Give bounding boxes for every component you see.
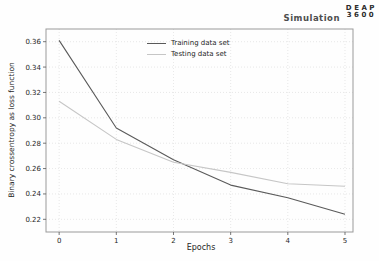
training-line-swatch <box>147 43 166 44</box>
testing-data-line <box>59 101 345 186</box>
x-tick-label: 4 <box>286 237 291 245</box>
legend-label-training: Training data set <box>171 39 230 47</box>
logo-text-3600: 3600 <box>343 12 377 19</box>
y-tick-label: 0.36 <box>25 38 41 46</box>
y-tick-label: 0.32 <box>25 89 41 97</box>
x-tick-label: 5 <box>343 237 347 245</box>
deap-3600-logo: DEAP 3600 <box>343 5 377 19</box>
y-tick-label: 0.30 <box>25 114 41 122</box>
legend-label-testing: Testing data set <box>171 50 227 58</box>
legend-item-testing: Testing data set <box>147 50 230 58</box>
x-tick-label: 1 <box>114 237 118 245</box>
figure: 0123450.220.240.260.280.300.320.340.36 S… <box>0 0 379 261</box>
y-tick-label: 0.28 <box>25 140 41 148</box>
y-tick-label: 0.24 <box>25 190 41 198</box>
testing-line-swatch <box>147 54 166 55</box>
y-tick-label: 0.26 <box>25 165 41 173</box>
chart-title: Simulation <box>284 13 340 23</box>
x-axis-label: Epochs <box>187 243 216 252</box>
legend: Training data set Testing data set <box>147 39 230 61</box>
x-tick-label: 0 <box>57 237 61 245</box>
y-tick-label: 0.22 <box>25 216 41 224</box>
y-axis-label: Binary crossentropy as loss function <box>7 62 16 198</box>
training-data-line <box>59 40 345 214</box>
y-tick-label: 0.34 <box>25 64 41 72</box>
x-tick-label: 3 <box>228 237 232 245</box>
legend-item-training: Training data set <box>147 39 230 47</box>
x-tick-label: 2 <box>171 237 175 245</box>
